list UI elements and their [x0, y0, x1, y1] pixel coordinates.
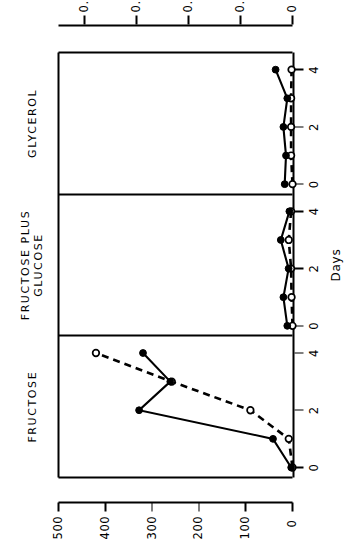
- data-point-filled-circle: [281, 180, 288, 187]
- chart-figure: 0100200300400500Actinomycin (mg / l) o—o…: [0, 0, 353, 539]
- data-point-filled-circle: [272, 66, 279, 73]
- data-point-filled-circle: [135, 406, 142, 413]
- data-point-open-circle: [289, 180, 296, 187]
- figure-rotation-wrapper: 0100200300400500Actinomycin (mg / l) o—o…: [0, 0, 353, 539]
- data-point-filled-circle: [277, 236, 284, 243]
- data-point-open-circle: [285, 236, 292, 243]
- data-point-open-circle: [92, 349, 99, 356]
- data-point-open-circle: [288, 66, 295, 73]
- data-point-filled-circle: [139, 349, 146, 356]
- data-point-open-circle: [288, 293, 295, 300]
- series-line-solid: [139, 353, 291, 467]
- data-point-open-circle: [287, 123, 294, 130]
- data-point-open-circle: [285, 435, 292, 442]
- data-point-open-circle: [247, 406, 254, 413]
- data-point-filled-circle: [280, 293, 287, 300]
- series-canvas: [0, 0, 353, 539]
- data-point-filled-circle: [280, 123, 287, 130]
- data-point-filled-circle: [283, 94, 290, 101]
- data-point-filled-circle: [283, 322, 290, 329]
- data-point-filled-circle: [285, 207, 292, 214]
- series-line-dashed: [95, 353, 292, 467]
- data-point-filled-circle: [282, 152, 289, 159]
- data-point-filled-circle: [285, 265, 292, 272]
- data-point-filled-circle: [269, 435, 276, 442]
